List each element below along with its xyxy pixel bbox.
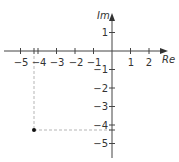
x-label-m3: −3 bbox=[50, 57, 65, 68]
y-label-m1: −1 bbox=[93, 64, 108, 75]
y-axis-arrow-icon bbox=[109, 13, 115, 21]
x-label-m4: −4 bbox=[32, 57, 47, 68]
x-axis bbox=[4, 48, 168, 54]
y-axis bbox=[109, 13, 115, 158]
x-tick-labels: −5 −4 −3 −2 −1 1 2 bbox=[14, 57, 153, 68]
y-tick-labels: 1 −1 −2 −3 −4 −5 bbox=[93, 27, 108, 149]
y-label-m2: −2 bbox=[93, 83, 108, 94]
y-label-m5: −5 bbox=[93, 138, 108, 149]
complex-plane-chart: −5 −4 −3 −2 −1 1 2 Re 1 −1 −2 −3 −4 −5 I… bbox=[0, 0, 179, 162]
x-label-p1: 1 bbox=[128, 57, 134, 68]
x-label-p2: 2 bbox=[146, 57, 152, 68]
y-label-m4: −4 bbox=[93, 120, 108, 131]
data-point bbox=[32, 128, 36, 132]
y-label-p1: 1 bbox=[102, 27, 108, 38]
y-label-m3: −3 bbox=[93, 101, 108, 112]
x-label-m5: −5 bbox=[14, 57, 29, 68]
x-label-m2: −2 bbox=[69, 57, 84, 68]
re-axis-label: Re bbox=[162, 54, 175, 65]
im-axis-label: Im bbox=[97, 10, 110, 21]
